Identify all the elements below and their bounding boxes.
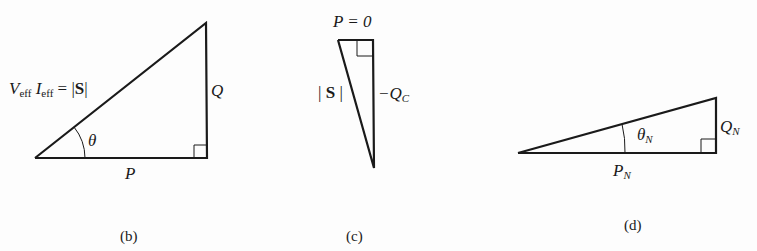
b-caption: (b) xyxy=(120,229,138,244)
c-s-label: | S | xyxy=(318,84,343,101)
d-qn-label: QN xyxy=(720,118,740,137)
c-caption: (c) xyxy=(346,229,363,244)
d-caption: (d) xyxy=(624,218,642,233)
power-triangle-figure: Veff Ieff = |S| Q θ P (b) P = 0 | S | −Q… xyxy=(0,0,757,251)
b-p-label: P xyxy=(125,165,135,182)
triangle-c xyxy=(338,40,374,168)
b-hypotenuse-label: Veff Ieff = |S| xyxy=(9,80,88,99)
b-theta-label: θ xyxy=(88,132,96,149)
c-p-zero-label: P = 0 xyxy=(333,13,372,30)
triangle-d xyxy=(518,98,716,153)
d-theta-label: θN xyxy=(637,126,653,145)
b-q-label: Q xyxy=(211,82,223,99)
d-pn-label: PN xyxy=(613,162,631,181)
c-qc-label: −QC xyxy=(378,85,409,104)
